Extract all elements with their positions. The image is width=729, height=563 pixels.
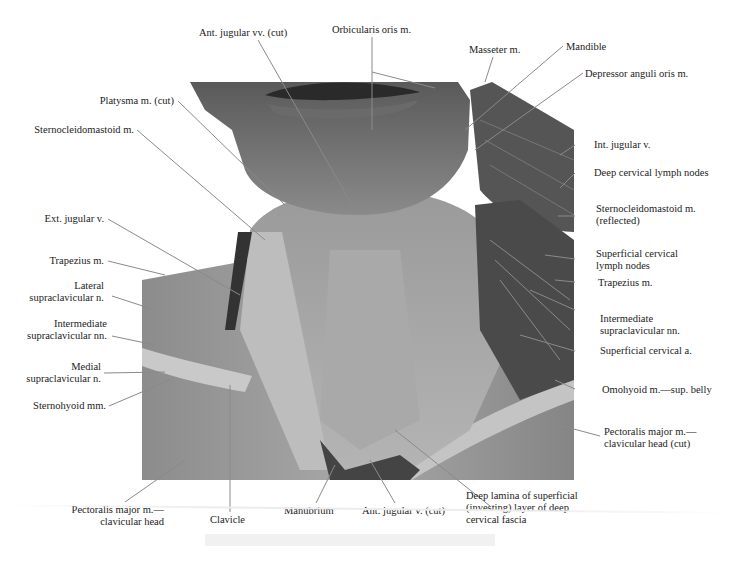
bottom-bar [205,534,495,546]
label-superficial-cervical-lymph-nodes: Superficial cervical lymph nodes [596,248,678,272]
label-int-jugular-v: Int. jugular v. [594,139,650,151]
label-orbicularis-oris: Orbicularis oris m. [332,24,411,36]
label-lateral-supraclavicular: Lateral supraclavicular n. [10,280,104,304]
label-omohyoid: Omohyoid m.—sup. belly [602,384,712,396]
label-ext-jugular-v: Ext. jugular v. [20,213,104,225]
label-pectoralis-cut: Pectoralis major m.— clavicular head (cu… [604,426,696,450]
label-sternocleidomastoid: Sternocleidomastoid m. [10,124,134,136]
label-superficial-cervical-a: Superficial cervical a. [600,345,692,357]
anatomy-figure: Ant. jugular vv. (cut) Orbicularis oris … [0,0,729,563]
label-depressor-anguli-oris: Depressor anguli oris m. [585,68,688,80]
label-deep-cervical-lymph-nodes: Deep cervical lymph nodes [594,167,709,179]
label-platysma-cut: Platysma m. (cut) [60,95,174,107]
label-intermediate-supraclavicular-right: Intermediate supraclavicular nn. [600,313,680,337]
label-mandible: Mandible [566,41,606,53]
label-sternohyoid: Sternohyoid mm. [5,400,106,412]
label-medial-supraclavicular: Medial supraclavicular n. [5,361,101,385]
label-ant-jugular-v-cut: Ant. jugular v. (cut) [362,505,445,517]
label-clavicle: Clavicle [210,514,245,526]
label-scm-reflected: Sternocleidomastoid m. (reflected) [596,203,696,227]
label-masseter: Masseter m. [469,44,520,56]
label-trapezius-right: Trapezius m. [598,277,652,289]
label-trapezius-left: Trapezius m. [20,255,104,267]
label-ant-jugular-vv-cut: Ant. jugular vv. (cut) [199,27,287,39]
label-intermediate-supraclavicular-left: Intermediate supraclavicular nn. [5,318,107,342]
label-deep-lamina: Deep lamina of superficial (investing) l… [466,490,578,526]
